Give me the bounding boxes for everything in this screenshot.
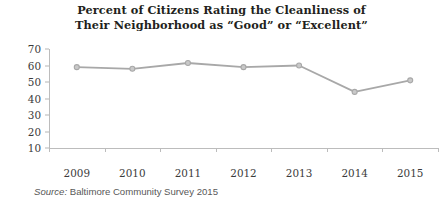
x-axis-tick-label: 2010	[119, 167, 145, 179]
chart-title-line-1: Percent of Citizens Rating the Cleanline…	[0, 3, 443, 18]
data-point-2010	[130, 66, 135, 71]
data-point-2011	[185, 61, 190, 66]
chart-container: Percent of Citizens Rating the Cleanline…	[0, 0, 443, 203]
data-point-2013	[297, 63, 302, 68]
x-axis-tick-label: 2011	[175, 167, 201, 179]
series-markers	[74, 61, 412, 95]
data-point-2012	[241, 65, 246, 70]
x-axis-tick-label: 2012	[230, 167, 256, 179]
x-axis-tick-label: 2014	[341, 167, 367, 179]
source-label: Source:	[34, 186, 67, 197]
data-point-2014	[352, 89, 357, 94]
chart-title: Percent of Citizens Rating the Cleanline…	[0, 3, 443, 32]
source-note: Source: Baltimore Community Survey 2015	[34, 186, 218, 197]
chart-title-line-2: Their Neighborhood as “Good” or “Excelle…	[0, 18, 443, 33]
x-axis-labels: 2009201020112012201320142015	[0, 167, 443, 183]
x-axis-tick-label: 2015	[397, 167, 423, 179]
data-point-2015	[408, 78, 413, 83]
plot-area: 10203040506070	[0, 40, 443, 165]
source-text: Baltimore Community Survey 2015	[70, 186, 218, 197]
x-axis-tick-label: 2009	[64, 167, 90, 179]
data-series-layer	[0, 40, 443, 165]
data-point-2009	[74, 65, 79, 70]
x-axis-tick-label: 2013	[286, 167, 312, 179]
